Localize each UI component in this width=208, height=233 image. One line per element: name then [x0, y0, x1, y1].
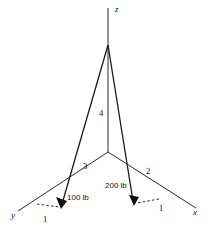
ratio-label-right-base-1: 1 — [159, 203, 163, 213]
ratio-label-left-arm-3: 3 — [83, 161, 87, 171]
dashed-tick-right — [137, 199, 159, 203]
x-axis-label: x — [192, 207, 197, 217]
y-axis-label: y — [10, 210, 15, 220]
force-line-200lb — [108, 45, 133, 201]
force-line-100lb — [62, 45, 108, 204]
force-magnitude-label-200lb: 200 lb — [105, 181, 127, 190]
ratio-label-left-base-1: 1 — [43, 214, 47, 224]
ratio-label-vertical-4: 4 — [99, 108, 104, 118]
arrowhead-200lb — [129, 195, 139, 206]
z-axis-label: z — [114, 4, 119, 14]
x-axis-line — [108, 152, 196, 208]
dashed-tick-left — [37, 204, 59, 207]
diagram-canvas: z y x 4 3 2 1 1 100 lb 200 lb — [0, 0, 208, 233]
force-diagram-figure: z y x 4 3 2 1 1 100 lb 200 lb — [0, 0, 208, 233]
force-magnitude-label-100lb: 100 lb — [67, 193, 89, 202]
ratio-label-right-arm-2: 2 — [146, 166, 150, 176]
